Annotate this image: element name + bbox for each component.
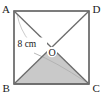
centre-label-o: O xyxy=(49,47,56,58)
vertex-label-b: B xyxy=(3,82,10,94)
vertex-label-d: D xyxy=(93,3,101,15)
vertex-label-a: A xyxy=(2,3,10,15)
vertex-label-c: C xyxy=(93,82,100,94)
measure-label-8cm: 8 cm xyxy=(18,39,37,49)
geometry-figure: 8 cm O A D B C xyxy=(0,0,106,96)
square-diagram-svg: 8 cm O A D B C xyxy=(0,0,106,96)
